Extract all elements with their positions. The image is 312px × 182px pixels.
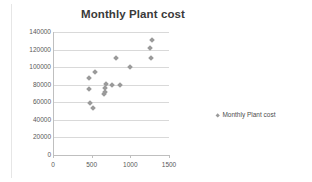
scatter-chart: Monthly Plant cost 020000400006000080000…: [0, 0, 312, 182]
gridline: [53, 120, 169, 121]
legend-entry-label: Monthly Plant cost: [222, 112, 275, 119]
x-axis-tick: [53, 155, 54, 158]
data-point-marker: [109, 82, 115, 88]
gridline: [53, 32, 169, 33]
x-axis-tick-label: 0: [38, 162, 68, 169]
x-axis-tick-label: 500: [77, 162, 107, 169]
y-axis-tick-label: 0: [5, 152, 51, 159]
x-axis-tick: [92, 155, 93, 158]
x-axis-tick-label: 1500: [154, 162, 184, 169]
x-axis-line: [53, 155, 170, 156]
data-point-marker: [87, 86, 93, 92]
gridline: [53, 67, 169, 68]
y-axis-tick-label: 140000: [5, 29, 51, 36]
data-point-marker: [117, 82, 123, 88]
y-axis-tick-label: 80000: [5, 82, 51, 89]
x-axis-tick: [169, 155, 170, 158]
gridline: [53, 137, 169, 138]
y-axis-line: [53, 32, 54, 156]
data-point-marker: [127, 64, 133, 70]
legend-diamond-icon: [215, 113, 220, 118]
gridline: [53, 50, 169, 51]
chart-legend: Monthly Plant cost: [216, 112, 276, 119]
data-point-marker: [86, 75, 92, 81]
plot-area: [53, 32, 169, 155]
y-axis-tick-label: 120000: [5, 47, 51, 54]
y-axis-tick-label: 60000: [5, 99, 51, 106]
y-axis-tick-label: 40000: [5, 117, 51, 124]
data-point-marker: [90, 106, 96, 112]
chart-title: Monthly Plant cost: [58, 8, 208, 20]
y-axis-tick-label: 100000: [5, 64, 51, 71]
y-axis-labels: 020000400006000080000100000120000140000: [2, 0, 51, 182]
data-point-marker: [114, 56, 120, 62]
x-axis-tick-label: 1000: [115, 162, 145, 169]
data-point-marker: [103, 81, 109, 87]
y-axis-tick-label: 20000: [5, 134, 51, 141]
data-point-marker: [150, 37, 156, 43]
data-point-marker: [92, 69, 98, 75]
x-axis-tick: [130, 155, 131, 158]
data-point-marker: [148, 56, 154, 62]
gridline: [53, 102, 169, 103]
